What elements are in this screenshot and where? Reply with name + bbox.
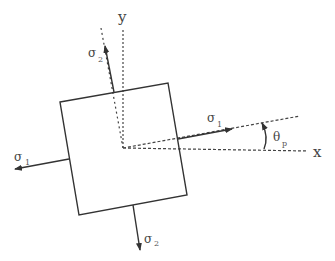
- sigma2-top-symbol: σ: [88, 46, 96, 60]
- sigma1-left-subscript: 1: [25, 158, 30, 167]
- y-axis-label: y: [117, 8, 127, 26]
- sigma2-bottom-arrow: [133, 205, 140, 250]
- stress-element-diagram: y x θ p σ 1 σ 1 σ 2 σ 2: [0, 0, 335, 261]
- x-axis: [123, 148, 308, 151]
- theta-symbol: θ: [273, 130, 280, 144]
- sigma1-right-arrow: [178, 129, 232, 139]
- principal-axis-2: [101, 28, 123, 148]
- sigma1-left-arrow: [15, 159, 69, 169]
- sigma1-left-symbol: σ: [14, 150, 22, 164]
- sigma2-bottom-symbol: σ: [144, 232, 152, 246]
- sigma2-top-subscript: 2: [98, 55, 103, 64]
- angle-arc: [262, 123, 266, 149]
- theta-subscript: p: [282, 139, 287, 148]
- sigma1-right-symbol: σ: [207, 111, 215, 125]
- x-axis-label: x: [313, 143, 322, 161]
- sigma2-bottom-subscript: 2: [154, 239, 159, 248]
- sigma1-right-subscript: 1: [217, 120, 222, 129]
- sigma2-top-arrow: [105, 46, 114, 92]
